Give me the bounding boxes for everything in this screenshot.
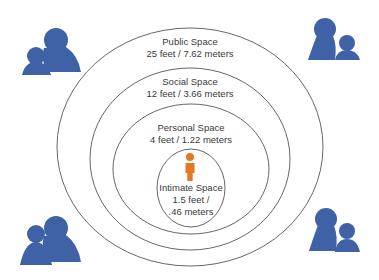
intimate-space-label: Intimate Space 1.5 feet / .46 meters	[159, 182, 222, 218]
person-icon	[186, 153, 195, 181]
zone-name: Personal Space	[150, 122, 232, 134]
people-group-icon	[309, 208, 360, 252]
zone-distance: .46 meters	[159, 206, 222, 218]
social-space-label: Social Space 12 feet / 3.66 meters	[146, 76, 233, 100]
zone-distance: 12 feet / 3.66 meters	[146, 88, 233, 100]
public-space-ring	[57, 28, 323, 266]
zone-name: Social Space	[146, 76, 233, 88]
zone-distance: 4 feet / 1.22 meters	[150, 134, 232, 146]
zone-distance: 1.5 feet /	[159, 194, 222, 206]
people-group-icon	[308, 18, 360, 60]
personal-space-label: Personal Space 4 feet / 1.22 meters	[150, 122, 232, 146]
zone-name: Intimate Space	[159, 182, 222, 194]
people-group-icon	[20, 216, 81, 265]
public-space-label: Public Space 25 feet / 7.62 meters	[146, 36, 233, 60]
people-group-icon	[22, 28, 81, 75]
zone-name: Public Space	[146, 36, 233, 48]
zone-distance: 25 feet / 7.62 meters	[146, 48, 233, 60]
proxemics-diagram: Public Space 25 feet / 7.62 meters Socia…	[0, 0, 379, 280]
